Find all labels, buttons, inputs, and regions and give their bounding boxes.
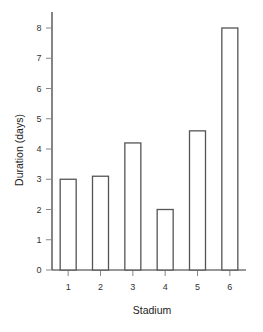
bar-4	[157, 210, 173, 271]
bar-3	[125, 143, 141, 270]
bar-5	[190, 131, 206, 270]
x-axis: 123456	[52, 270, 246, 292]
y-tick-label: 5	[36, 114, 41, 124]
x-tick-label: 5	[195, 282, 200, 292]
x-tick-label: 6	[227, 282, 232, 292]
x-tick-label: 4	[163, 282, 168, 292]
y-axis-label: Duration (days)	[13, 114, 25, 186]
x-tick-label: 3	[130, 282, 135, 292]
bar-2	[93, 176, 109, 270]
y-tick-label: 0	[36, 265, 41, 275]
bar-1	[60, 179, 76, 270]
x-axis-label: Stadium	[133, 304, 172, 316]
y-axis: 012345678	[36, 12, 52, 275]
x-tick-label: 1	[66, 282, 71, 292]
y-tick-label: 7	[36, 53, 41, 63]
y-tick-label: 1	[36, 235, 41, 245]
y-tick-label: 2	[36, 205, 41, 215]
y-tick-label: 4	[36, 144, 41, 154]
y-tick-label: 3	[36, 174, 41, 184]
x-tick-label: 2	[98, 282, 103, 292]
y-tick-label: 8	[36, 23, 41, 33]
bars	[60, 28, 238, 270]
y-tick-label: 6	[36, 84, 41, 94]
bar-chart: 012345678 123456 Duration (days) Stadium	[0, 0, 263, 332]
bar-6	[222, 28, 238, 270]
